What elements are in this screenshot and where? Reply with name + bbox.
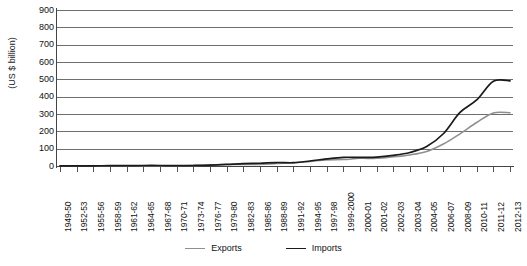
x-axis-tick-label: 1985-86 bbox=[264, 202, 273, 233]
x-axis-tick bbox=[477, 167, 478, 172]
y-axis-tick-label: 600 bbox=[39, 58, 54, 67]
x-axis-tick bbox=[177, 167, 178, 172]
x-axis-tick bbox=[343, 167, 344, 172]
x-axis-tick bbox=[510, 167, 511, 172]
x-axis-tick bbox=[260, 167, 261, 172]
x-axis-tick-label: 2004-05 bbox=[430, 202, 439, 233]
x-axis-tick-label: 1997-98 bbox=[330, 202, 339, 233]
x-axis-tick bbox=[427, 167, 428, 172]
series-layer bbox=[57, 10, 513, 166]
x-axis-tick-label: 2002-03 bbox=[397, 202, 406, 233]
y-axis-tick-label: 300 bbox=[39, 110, 54, 119]
x-axis-tick bbox=[227, 167, 228, 172]
x-axis-tick-label: 1988-89 bbox=[280, 202, 289, 233]
chart-legend: ExportsImports bbox=[0, 243, 527, 253]
y-axis-tick-label: 400 bbox=[39, 92, 54, 101]
x-axis-tick-label: 1982-83 bbox=[247, 202, 256, 233]
x-axis-tick-label: 2011-12 bbox=[497, 202, 506, 232]
x-axis-tick bbox=[493, 167, 494, 172]
series-line-exports bbox=[60, 112, 510, 166]
x-axis-tick-label: 1967-68 bbox=[164, 202, 173, 233]
trade-line-chart: (US $ billion) 9008007006005004003002001… bbox=[0, 0, 527, 266]
x-axis-tick-label: 1991-92 bbox=[297, 202, 306, 233]
x-axis-tick-label: 1970-71 bbox=[180, 202, 189, 233]
y-axis-title: (US $ billion) bbox=[7, 23, 17, 103]
x-axis-tick bbox=[443, 167, 444, 172]
x-axis-tick-label: 1949-50 bbox=[64, 202, 73, 233]
y-axis-tick-labels: 9008007006005004003002001000 bbox=[24, 0, 54, 176]
x-axis-tick bbox=[460, 167, 461, 172]
x-axis-tick bbox=[160, 167, 161, 172]
x-axis-tick-label: 1973-74 bbox=[197, 202, 206, 233]
y-axis-tick-label: 700 bbox=[39, 40, 54, 49]
legend-swatch-exports bbox=[185, 248, 205, 249]
series-line-imports bbox=[60, 80, 510, 166]
x-axis-tick bbox=[127, 167, 128, 172]
x-axis-tick-label: 2003-04 bbox=[414, 202, 423, 233]
legend-label: Imports bbox=[312, 243, 342, 253]
x-axis-tick-label: 1958-59 bbox=[114, 202, 123, 233]
legend-label: Exports bbox=[211, 243, 242, 253]
x-axis-tick bbox=[393, 167, 394, 172]
y-axis-tick-label: 200 bbox=[39, 127, 54, 136]
y-axis-tick-label: 900 bbox=[39, 6, 54, 15]
x-axis-tick-label: 1994-95 bbox=[314, 202, 323, 233]
plot-area bbox=[57, 10, 513, 166]
x-axis-tick-label: 2001-02 bbox=[380, 202, 389, 233]
x-axis-tick-label: 2012-13 bbox=[514, 202, 523, 233]
x-axis-tick bbox=[293, 167, 294, 172]
x-axis-tick-label: 1964-65 bbox=[147, 202, 156, 233]
x-axis-tick-label: 1999-2000 bbox=[347, 192, 356, 232]
x-axis-tick-label: 1952-53 bbox=[80, 202, 89, 233]
x-axis-tick bbox=[110, 167, 111, 172]
x-axis-tick bbox=[77, 167, 78, 172]
x-axis-tick bbox=[377, 167, 378, 172]
x-axis-tick-label: 1976-77 bbox=[214, 202, 223, 233]
x-axis-tick bbox=[193, 167, 194, 172]
y-axis-tick-label: 800 bbox=[39, 23, 54, 32]
legend-item-imports[interactable]: Imports bbox=[286, 243, 342, 253]
x-axis-tick bbox=[93, 167, 94, 172]
x-axis-tick-label: 2008-09 bbox=[464, 202, 473, 233]
x-axis-tick-labels: 1949-501952-531955-561958-591961-621964-… bbox=[57, 174, 513, 236]
legend-swatch-imports bbox=[286, 248, 306, 249]
x-axis-tick-label: 1955-56 bbox=[97, 202, 106, 233]
x-axis-tick bbox=[210, 167, 211, 172]
x-axis-tick-label: 2000-01 bbox=[364, 202, 373, 233]
y-axis-tick-label: 500 bbox=[39, 75, 54, 84]
x-axis-tick bbox=[310, 167, 311, 172]
x-axis-tick bbox=[410, 167, 411, 172]
x-axis-tick-label: 1961-62 bbox=[130, 202, 139, 233]
y-axis-tick-label: 0 bbox=[49, 162, 54, 171]
x-axis-tick bbox=[327, 167, 328, 172]
x-axis-tick bbox=[243, 167, 244, 172]
x-axis-tick-label: 1979-80 bbox=[230, 202, 239, 233]
y-axis-tick-label: 100 bbox=[39, 144, 54, 153]
x-axis-tick bbox=[60, 167, 61, 172]
x-axis-tick bbox=[277, 167, 278, 172]
x-axis-tick-label: 2010-11 bbox=[480, 202, 489, 232]
x-axis-tick bbox=[360, 167, 361, 172]
x-axis-ticks bbox=[57, 167, 513, 172]
x-axis-tick-label: 2006-07 bbox=[447, 202, 456, 233]
x-axis-tick bbox=[143, 167, 144, 172]
legend-item-exports[interactable]: Exports bbox=[185, 243, 242, 253]
